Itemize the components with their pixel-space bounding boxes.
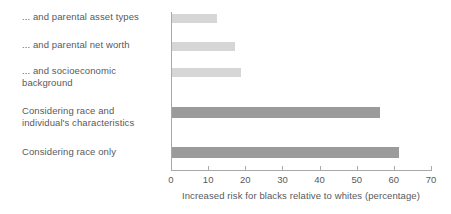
x-tick-label-0: 0 bbox=[159, 174, 183, 185]
x-tick-mark-4 bbox=[320, 166, 321, 171]
x-tick-mark-5 bbox=[357, 166, 358, 171]
x-axis-title: Increased risk for blacks relative to wh… bbox=[171, 190, 431, 202]
x-tick-mark-0 bbox=[171, 166, 172, 171]
category-label-1: ... and parental net worth bbox=[22, 39, 166, 51]
x-tick-label-6: 60 bbox=[382, 174, 406, 185]
bar-chart: ... and parental asset types ... and par… bbox=[0, 0, 451, 214]
x-tick-label-1: 10 bbox=[196, 174, 220, 185]
plot-area: 010203040506070 bbox=[171, 0, 451, 214]
bar-4 bbox=[172, 147, 399, 158]
x-tick-label-5: 50 bbox=[345, 174, 369, 185]
x-tick-mark-2 bbox=[245, 166, 246, 171]
category-label-0: ... and parental asset types bbox=[22, 11, 166, 23]
x-tick-mark-3 bbox=[282, 166, 283, 171]
bar-3 bbox=[172, 107, 380, 118]
x-tick-mark-6 bbox=[394, 166, 395, 171]
x-tick-label-2: 20 bbox=[233, 174, 257, 185]
x-axis-line bbox=[171, 170, 431, 171]
x-tick-label-3: 30 bbox=[270, 174, 294, 185]
category-label-2: ... and socioeconomic background bbox=[22, 65, 166, 88]
bar-0 bbox=[172, 14, 217, 23]
bar-1 bbox=[172, 42, 235, 51]
category-label-3: Considering race and individual's charac… bbox=[22, 105, 166, 128]
bar-2 bbox=[172, 68, 241, 77]
x-tick-label-4: 40 bbox=[308, 174, 332, 185]
category-label-4: Considering race only bbox=[22, 146, 166, 158]
x-tick-label-7: 70 bbox=[419, 174, 443, 185]
x-tick-mark-7 bbox=[431, 166, 432, 171]
x-tick-mark-1 bbox=[208, 166, 209, 171]
